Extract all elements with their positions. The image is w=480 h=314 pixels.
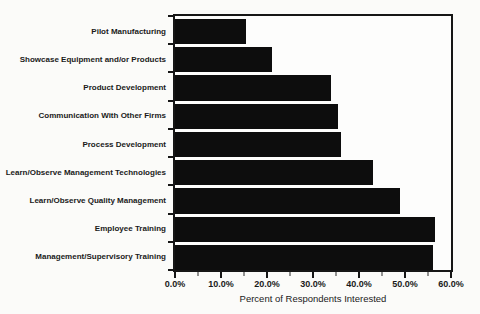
category-label: Showcase Equipment and/or Products [0,55,166,64]
x-tick-label: 0.0% [165,279,186,289]
y-axis-tick [168,213,173,215]
x-minor-tick [198,272,199,276]
y-axis-tick [168,71,173,73]
x-major-tick [220,272,222,278]
x-major-tick [266,272,268,278]
x-major-tick [174,272,176,278]
category-label: Learn/Observe Quality Management [0,196,166,205]
x-major-tick [358,272,360,278]
y-axis-tick [168,156,173,158]
category-label: Employee Training [0,224,166,233]
bar [175,188,400,213]
x-major-tick [404,272,406,278]
y-axis-tick [168,184,173,186]
bar [175,217,435,242]
x-tick-label: 10.0% [208,279,234,289]
x-tick-label: 60.0% [438,279,464,289]
x-major-tick [450,272,452,278]
bar [175,104,338,129]
category-label: Process Development [0,140,166,149]
bar [175,245,433,270]
y-axis-tick [168,100,173,102]
bar [175,47,272,72]
x-axis-title: Percent of Respondents Interested [173,293,453,304]
x-minor-tick [290,272,291,276]
x-tick-label: 30.0% [300,279,326,289]
bar-chart: Pilot ManufacturingShowcase Equipment an… [0,0,480,314]
category-axis: Pilot ManufacturingShowcase Equipment an… [0,14,166,272]
x-minor-tick [336,272,337,276]
category-label: Communication With Other Firms [0,111,166,120]
category-label: Learn/Observe Management Technologies [0,168,166,177]
bar [175,75,331,100]
bar [175,160,373,185]
x-major-tick [312,272,314,278]
y-axis-tick [168,43,173,45]
x-minor-tick [428,272,429,276]
category-label: Management/Supervisory Training [0,252,166,261]
x-tick-label: 50.0% [392,279,418,289]
bar [175,132,341,157]
category-label: Pilot Manufacturing [0,27,166,36]
bar [175,19,246,44]
y-axis-tick [168,269,173,271]
x-minor-tick [382,272,383,276]
y-axis-tick [168,128,173,130]
x-tick-label: 20.0% [254,279,280,289]
plot-area [173,14,453,272]
y-axis-tick [168,241,173,243]
x-tick-label: 40.0% [346,279,372,289]
x-minor-tick [244,272,245,276]
category-label: Product Development [0,83,166,92]
y-axis-tick [168,15,173,17]
